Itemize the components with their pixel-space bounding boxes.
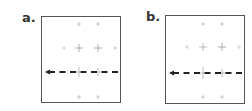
arrow-left-icon xyxy=(169,71,174,76)
figure-marks xyxy=(0,0,252,111)
arrow-left-icon xyxy=(45,70,50,75)
